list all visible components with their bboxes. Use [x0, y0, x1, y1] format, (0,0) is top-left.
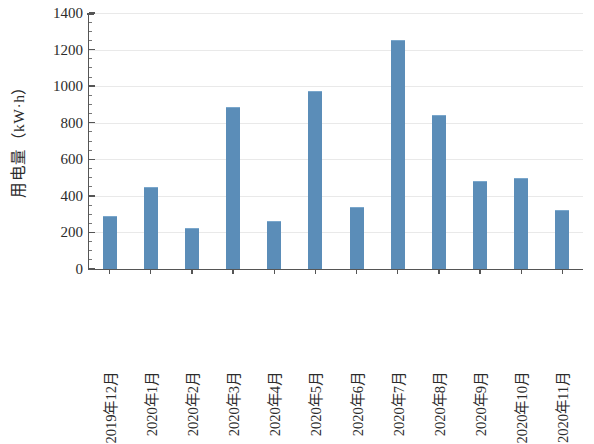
y-axis-minor-tick	[89, 40, 92, 41]
y-axis-minor-tick	[89, 141, 92, 142]
y-axis-minor-tick	[89, 177, 92, 178]
x-axis-label-text: 2020年6月	[345, 372, 366, 436]
y-axis-minor-tick	[89, 77, 92, 78]
bar	[514, 178, 528, 269]
bar	[185, 228, 199, 269]
y-axis-minor-tick	[89, 113, 92, 114]
bar	[103, 216, 117, 269]
bar	[144, 187, 158, 269]
y-axis-minor-tick	[89, 22, 92, 23]
y-axis-minor-tick	[89, 205, 92, 206]
y-axis-tick	[89, 122, 95, 123]
y-axis-minor-tick	[89, 150, 92, 151]
y-axis-tick	[89, 49, 95, 50]
bar	[555, 210, 569, 269]
x-axis-label-text: 2020年8月	[427, 372, 448, 436]
y-axis-tick-label: 800	[61, 114, 84, 131]
bar	[432, 115, 446, 269]
y-axis-tick-label: 1400	[53, 5, 83, 22]
y-axis-minor-tick	[89, 95, 92, 96]
x-axis-label-text: 2020年2月	[180, 372, 201, 436]
x-axis-label-text: 2020年11月	[551, 372, 572, 443]
y-axis-tick	[89, 195, 95, 196]
x-axis-label-text: 2020年9月	[469, 372, 490, 436]
y-axis-minor-tick	[89, 168, 92, 169]
y-axis-minor-tick	[89, 58, 92, 59]
bar	[267, 221, 281, 269]
x-axis-label-text: 2020年5月	[304, 372, 325, 436]
x-axis-label-text: 2020年7月	[386, 372, 407, 436]
x-axis-label-text: 2020年3月	[222, 372, 243, 436]
gridline	[89, 196, 583, 197]
y-axis-tick-label: 200	[61, 224, 84, 241]
y-axis-minor-tick	[89, 214, 92, 215]
x-axis-label-text: 2020年4月	[263, 372, 284, 436]
y-axis-tick	[89, 85, 95, 86]
x-axis-label-text: 2020年1月	[139, 372, 160, 436]
gridline	[89, 86, 583, 87]
gridline	[89, 50, 583, 51]
y-axis-tick-label: 400	[61, 187, 84, 204]
y-axis-minor-tick	[89, 186, 92, 187]
bar	[226, 107, 240, 269]
bar	[308, 91, 322, 269]
bar	[391, 40, 405, 269]
gridline	[89, 159, 583, 160]
y-axis-title: 用电量（kW·h）	[0, 0, 34, 275]
y-axis-minor-tick	[89, 223, 92, 224]
y-axis-minor-tick	[89, 31, 92, 32]
y-axis-minor-tick	[89, 241, 92, 242]
y-axis-minor-tick	[89, 104, 92, 105]
y-axis-tick	[89, 12, 95, 13]
y-axis-tick	[89, 268, 95, 269]
y-axis-tick-label: 600	[61, 151, 84, 168]
plot-area: 0200400600800100012001400	[88, 13, 583, 270]
gridline	[89, 232, 583, 233]
y-axis-tick	[89, 232, 95, 233]
x-axis-label-text: 2019年12月	[98, 372, 119, 444]
y-axis-minor-tick	[89, 131, 92, 132]
y-axis-minor-tick	[89, 67, 92, 68]
y-axis-tick-label: 1000	[53, 78, 83, 95]
x-axis-labels: 2019年12月2020年1月2020年2月2020年3月2020年4月2020…	[88, 272, 582, 375]
y-axis-minor-tick	[89, 250, 92, 251]
gridline	[89, 13, 583, 14]
y-axis-tick	[89, 159, 95, 160]
bar	[350, 207, 364, 269]
x-axis-label-text: 2020年10月	[510, 372, 531, 444]
y-axis-tick-label: 0	[76, 261, 84, 278]
y-axis-title-label: 用电量（kW·h）	[6, 78, 28, 198]
y-axis-tick-label: 1200	[53, 41, 83, 58]
y-axis-minor-tick	[89, 259, 92, 260]
gridline	[89, 123, 583, 124]
bar	[473, 181, 487, 269]
